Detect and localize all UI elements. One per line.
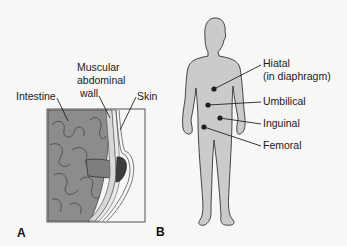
label-inguinal: Inguinal bbox=[263, 117, 300, 129]
label-umbilical: Umbilical bbox=[263, 95, 306, 107]
label-hiatal: Hiatal bbox=[263, 57, 290, 69]
panel-a-letter: A bbox=[17, 226, 26, 240]
label-muscular-line1: Muscular bbox=[77, 61, 120, 73]
body-silhouette bbox=[183, 18, 246, 225]
label-muscular-line2: abdominal bbox=[77, 74, 125, 86]
label-femoral: Femoral bbox=[263, 139, 302, 151]
label-muscular-line3: wall bbox=[80, 87, 98, 99]
panel-b-letter: B bbox=[156, 225, 165, 239]
label-skin: Skin bbox=[137, 90, 157, 102]
hernia-figure: Intestine Muscular abdominal wall Skin A… bbox=[0, 0, 347, 246]
label-hiatal-sub: (in diaphragm) bbox=[263, 70, 331, 82]
label-intestine: Intestine bbox=[16, 90, 56, 102]
